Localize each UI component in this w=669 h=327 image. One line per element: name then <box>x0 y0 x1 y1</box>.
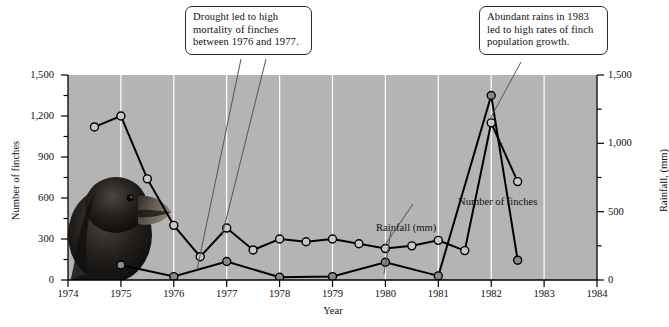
series-label-number-of-finches: Number of finches <box>458 196 537 207</box>
drought-callout: Drought led to high mortality of finches… <box>185 6 312 55</box>
drought-callout-line-3: between 1976 and 1977. <box>193 36 305 49</box>
y-tick-label-left-1500: 1,500 <box>10 69 54 80</box>
rains-callout-line-2: led to high rates of finch <box>487 24 601 37</box>
rains-callout-line-1: Abundant rains in 1983 <box>487 11 601 24</box>
x-axis-title: Year <box>0 305 666 316</box>
x-tick-label-1978: 1978 <box>255 288 305 299</box>
x-tick-label-1977: 1977 <box>202 288 252 299</box>
y-tick-label-right-500: 500 <box>608 206 652 217</box>
rains-callout-line-3: population growth. <box>487 36 601 49</box>
series-label-rainfall: Rainfall (mm) <box>376 222 436 233</box>
x-tick-label-1983: 1983 <box>519 288 569 299</box>
y-axis-title-right: Rainfall, (mm) <box>658 126 669 236</box>
x-tick-label-1975: 1975 <box>96 288 146 299</box>
rains-callout: Abundant rains in 1983 led to high rates… <box>479 6 608 55</box>
x-tick-label-1984: 1984 <box>572 288 622 299</box>
y-axis-ticks-right <box>597 75 604 280</box>
y-tick-label-left-0: 0 <box>10 274 54 285</box>
x-tick-label-1979: 1979 <box>308 288 358 299</box>
x-axis-ticks <box>68 280 597 287</box>
y-axis-title-left: Number of finches <box>10 126 21 236</box>
drought-callout-line-1: Drought led to high <box>193 11 305 24</box>
x-tick-label-1976: 1976 <box>149 288 199 299</box>
y-tick-label-right-1500: 1,500 <box>608 69 652 80</box>
y-axis-ticks-left <box>61 75 68 280</box>
drought-callout-line-2: mortality of finches <box>193 24 305 37</box>
x-tick-label-1982: 1982 <box>466 288 516 299</box>
y-tick-label-right-1000: 1,000 <box>608 137 652 148</box>
x-tick-label-1980: 1980 <box>360 288 410 299</box>
y-tick-label-right-0: 0 <box>608 274 652 285</box>
x-tick-label-1981: 1981 <box>413 288 463 299</box>
y-tick-label-left-1200: 1,200 <box>10 110 54 121</box>
x-tick-label-1974: 1974 <box>43 288 93 299</box>
